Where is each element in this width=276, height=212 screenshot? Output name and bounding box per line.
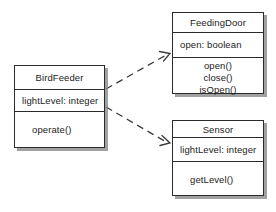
uml-class-sensor[interactable]: Sensor lightLevel: integer getLevel() (172, 120, 264, 196)
dependency-birdfeeder-to-feedingdoor[interactable] (106, 52, 170, 90)
operation-item: isOpen() (173, 84, 263, 96)
class-name-label: Sensor (173, 124, 263, 135)
class-name-compartment: BirdFeeder (15, 66, 104, 89)
uml-class-feedingdoor[interactable]: FeedingDoor open: boolean open() close()… (172, 12, 264, 94)
attribute-item: open: boolean (173, 39, 263, 51)
attribute-item: lightLevel: integer (15, 95, 104, 107)
class-operations-compartment: open() close() isOpen() (173, 57, 263, 95)
operation-item: operate() (15, 124, 104, 136)
class-operations-compartment: operate() (15, 111, 104, 147)
dependency-birdfeeder-to-sensor[interactable] (106, 107, 170, 146)
class-attributes-compartment: lightLevel: integer (15, 89, 104, 111)
class-name-compartment: FeedingDoor (173, 13, 263, 32)
class-name-label: FeedingDoor (173, 17, 263, 28)
class-attributes-compartment: open: boolean (173, 32, 263, 57)
operation-item: open() (173, 60, 263, 72)
attribute-item: lightLevel: integer (173, 144, 263, 156)
class-name-label: BirdFeeder (15, 72, 104, 83)
class-attributes-compartment: lightLevel: integer (173, 137, 263, 161)
operation-item: close() (173, 72, 263, 84)
class-name-compartment: Sensor (173, 121, 263, 137)
operation-item: getLevel() (173, 174, 263, 186)
class-operations-compartment: getLevel() (173, 161, 263, 197)
uml-class-birdfeeder[interactable]: BirdFeeder lightLevel: integer operate() (14, 65, 105, 148)
uml-class-diagram-canvas: BirdFeeder lightLevel: integer operate()… (0, 0, 276, 212)
